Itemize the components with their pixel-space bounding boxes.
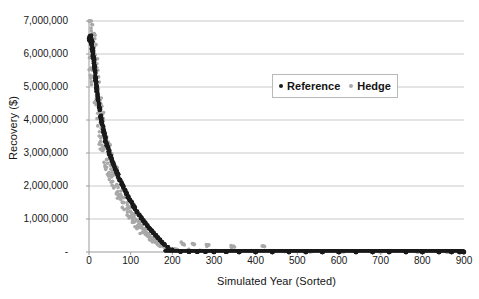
data-point xyxy=(229,244,233,248)
data-point xyxy=(100,119,104,123)
x-axis-title: Simulated Year (Sorted) xyxy=(89,275,464,287)
series-reference xyxy=(87,33,466,254)
data-point xyxy=(96,124,100,128)
hedge-marker-icon xyxy=(349,84,353,88)
data-point xyxy=(104,168,108,172)
data-point xyxy=(92,64,96,68)
data-point xyxy=(111,180,115,184)
y-tick-label: 3,000,000 xyxy=(0,147,68,158)
legend-item-reference: Reference xyxy=(279,80,340,92)
data-point xyxy=(119,193,123,197)
data-point xyxy=(92,60,96,64)
data-point xyxy=(106,145,110,149)
data-point xyxy=(132,216,136,220)
data-point xyxy=(233,245,237,249)
data-point xyxy=(191,242,195,246)
data-point xyxy=(116,186,120,190)
data-point xyxy=(94,43,98,47)
legend-label-hedge: Hedge xyxy=(357,80,391,92)
data-point xyxy=(93,68,97,72)
data-point xyxy=(116,196,120,200)
data-point xyxy=(96,97,100,101)
data-point xyxy=(99,136,103,140)
data-point xyxy=(205,245,209,249)
data-point xyxy=(110,157,114,161)
legend-item-hedge: Hedge xyxy=(349,80,391,92)
scatter-chart: Recovery ($) Simulated Year (Sorted) -1,… xyxy=(0,0,479,299)
data-point xyxy=(90,83,94,87)
data-point xyxy=(166,245,170,249)
y-tick-label: 1,000,000 xyxy=(0,213,68,224)
data-point xyxy=(88,19,92,23)
data-point xyxy=(102,161,106,165)
data-point xyxy=(122,201,126,205)
data-point xyxy=(158,244,162,248)
y-tick-label: 5,000,000 xyxy=(0,81,68,92)
data-point xyxy=(98,108,102,112)
data-point xyxy=(104,135,108,139)
data-point xyxy=(138,223,142,227)
y-tick-label: 6,000,000 xyxy=(0,48,68,59)
data-point xyxy=(90,23,94,27)
y-tick-label: 7,000,000 xyxy=(0,15,68,26)
data-point xyxy=(102,147,106,151)
legend-label-reference: Reference xyxy=(287,80,340,92)
series-reference-tail xyxy=(163,249,465,252)
data-point xyxy=(121,206,125,210)
data-point xyxy=(109,167,113,171)
data-point xyxy=(116,172,120,176)
chart-legend: Reference Hedge xyxy=(272,74,398,98)
data-point xyxy=(136,219,140,223)
data-point xyxy=(91,49,95,53)
x-tick-label: 900 xyxy=(434,255,479,266)
data-point xyxy=(89,29,93,33)
data-point xyxy=(90,39,94,43)
data-point xyxy=(263,245,267,249)
y-tick-label: - xyxy=(0,246,68,257)
data-point xyxy=(121,184,125,188)
data-point xyxy=(94,80,98,84)
y-tick-label: 4,000,000 xyxy=(0,114,68,125)
data-point xyxy=(98,130,102,134)
data-point xyxy=(462,249,465,252)
data-point xyxy=(132,205,136,209)
data-point xyxy=(181,242,185,246)
reference-marker-icon xyxy=(279,84,283,88)
y-tick-label: 2,000,000 xyxy=(0,180,68,191)
